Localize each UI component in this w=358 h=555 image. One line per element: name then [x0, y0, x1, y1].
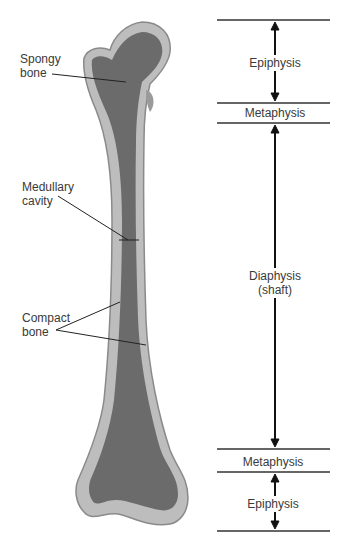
label-metaphysis-top: Metaphysis — [230, 105, 320, 121]
label-compact-bone: Compact bone — [22, 311, 70, 339]
label-line: Compact — [22, 311, 70, 325]
label-line: Medullary — [22, 180, 74, 194]
label-medullary-cavity: Medullary cavity — [22, 180, 74, 208]
label-spongy-bone: Spongy bone — [20, 52, 61, 80]
shaft-sublabel: (shaft) — [236, 283, 314, 297]
label-line: bone — [22, 325, 70, 339]
label-diaphysis: Diaphysis (shaft) — [236, 268, 314, 298]
diaphysis-label: Diaphysis — [236, 269, 314, 283]
label-metaphysis-bottom: Metaphysis — [228, 454, 318, 470]
label-epiphysis-bottom: Epiphysis — [238, 496, 308, 512]
label-line: Spongy — [20, 52, 61, 66]
label-epiphysis-top: Epiphysis — [240, 55, 310, 71]
label-line: bone — [20, 66, 61, 80]
label-line: cavity — [22, 194, 74, 208]
lesser-trochanter — [146, 90, 153, 112]
